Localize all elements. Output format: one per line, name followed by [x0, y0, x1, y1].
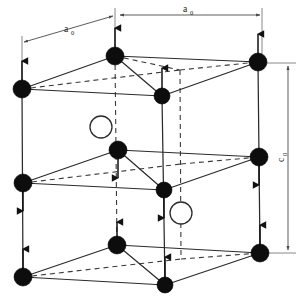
edge-mid-backleft-right — [118, 150, 259, 157]
atom-b-left — [14, 268, 32, 286]
label-c0-sub: 0 — [281, 153, 288, 156]
edge-top-left-backleft — [22, 56, 115, 89]
dashed-mid-left-to-back — [23, 164, 181, 183]
edge-top-left-frontctr — [22, 89, 162, 96]
open-atom-lower — [170, 202, 192, 224]
edge-bot-backleft-right — [117, 245, 260, 253]
atom-t-left — [13, 80, 31, 98]
edge-bot-left-frontctr — [23, 277, 165, 285]
edge-bot-left-backleft — [23, 245, 117, 277]
visible-edges-group — [22, 56, 260, 285]
atom-t-front-ctr — [154, 88, 170, 104]
dashed-bot-left-to-back — [23, 259, 181, 277]
edge-mid-frontctr-right — [164, 157, 259, 190]
hidden-edges-group — [22, 56, 260, 277]
dim-line-a0-left — [24, 16, 113, 42]
atom-m-left — [14, 174, 32, 192]
atom-t-back-left — [106, 47, 124, 65]
dashed-top-left-to-back — [22, 70, 180, 89]
edge-mid-left-backleft — [23, 150, 118, 183]
label-a0-left-sub: 0 — [71, 29, 74, 36]
label-c0-base: c — [276, 158, 286, 162]
edge-bot-frontctr-right — [165, 253, 260, 285]
atom-t-right — [249, 53, 267, 71]
open-atom-upper — [90, 116, 112, 138]
atom-b-back-left — [108, 236, 126, 254]
dashed-bot-back-to-right — [181, 253, 260, 259]
label-a0-right-sub: 0 — [190, 9, 193, 16]
atom-b-front-ctr — [157, 277, 173, 293]
unit-cell-drawing: a 0 a 0 c 0 — [0, 0, 307, 307]
atom-m-right — [250, 148, 268, 166]
label-a0-right-base: a — [183, 4, 188, 14]
atom-m-front-ctr — [156, 182, 172, 198]
crystal-structure-figure: a 0 a 0 c 0 — [0, 0, 307, 307]
dashed-pillar-back-right — [180, 70, 181, 259]
atom-m-back-left — [109, 141, 127, 159]
edge-mid-left-frontctr — [23, 183, 164, 190]
dimension-annotations: a 0 a 0 c 0 — [22, 4, 296, 253]
atom-b-right — [251, 244, 269, 262]
